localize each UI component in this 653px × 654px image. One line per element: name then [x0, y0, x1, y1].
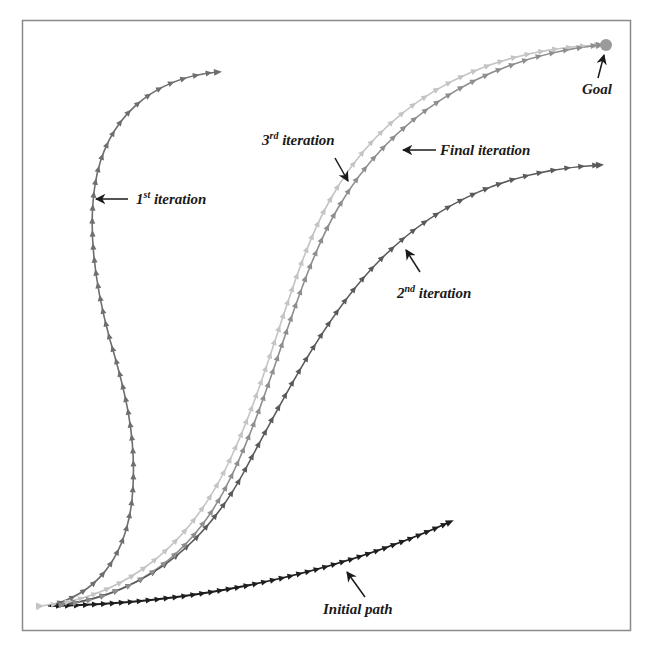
- diagram-canvas: [0, 0, 653, 654]
- goal-marker: [600, 39, 612, 51]
- path-direction-markers: [50, 41, 604, 609]
- second-iteration-label-sup: nd: [405, 283, 416, 294]
- first-iteration-label-num: 1: [136, 191, 144, 207]
- first-iteration-label: 1st iteration: [136, 192, 206, 207]
- third-iteration-label: 3rd iteration: [262, 133, 335, 148]
- path-iteration-figure: Goal 1st iteration 3rd iteration Final i…: [0, 0, 653, 654]
- goal-pointer-arrow: [598, 55, 604, 78]
- second-iteration-path: [48, 165, 600, 606]
- initial-path-pointer-arrow: [347, 572, 365, 597]
- third-iteration-path: [40, 45, 600, 606]
- final-iteration-path: [48, 45, 600, 606]
- third-iteration-label-num: 3: [262, 132, 270, 148]
- initial-path-label: Initial path: [323, 602, 393, 617]
- second-iteration-label: 2nd iteration: [397, 286, 471, 301]
- first-iteration-path: [48, 72, 218, 606]
- third-iteration-label-text: iteration: [278, 132, 334, 148]
- second-iteration-label-text: iteration: [415, 285, 471, 301]
- second-iteration-label-num: 2: [397, 285, 405, 301]
- figure-frame: [23, 21, 631, 631]
- first-iteration-label-text: iteration: [150, 191, 206, 207]
- final-iteration-label: Final iteration: [440, 143, 530, 158]
- goal-label: Goal: [582, 82, 612, 97]
- second-iteration-pointer-arrow: [406, 250, 420, 272]
- third-iteration-pointer-arrow: [335, 158, 348, 181]
